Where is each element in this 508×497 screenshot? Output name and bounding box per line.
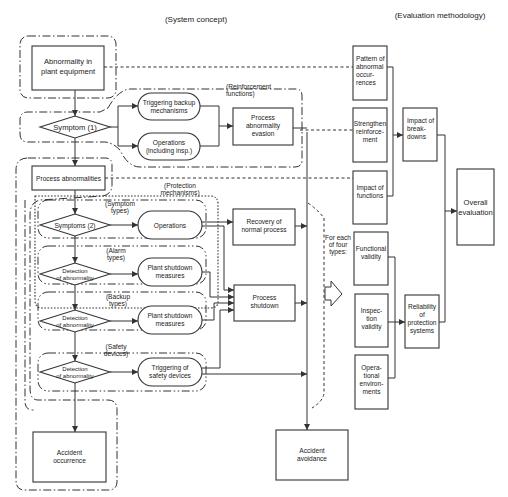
functional-validity-label: validity <box>361 253 382 261</box>
abnormality-equipment-label: plant equipment <box>41 67 96 76</box>
accident-occurrence-label: occurrence <box>53 457 86 464</box>
recovery-label: normal process <box>241 226 287 234</box>
accident-occurrence-label: Accident <box>57 449 82 456</box>
strengthen-box <box>353 108 387 162</box>
strengthen-label: Strengthen <box>354 120 387 128</box>
overall-label: evaluation <box>458 208 493 217</box>
operations-insp-label: (including insp.) <box>146 147 192 155</box>
safety-devices-label: devices) <box>104 350 129 358</box>
triggering-backup-label: mechanisms <box>150 107 188 114</box>
operations-label: Operations <box>154 222 187 230</box>
strengthen-label: reinforce- <box>356 128 384 135</box>
symptom1-label: Symptom (1) <box>53 123 97 132</box>
detection2-label: Detection <box>62 315 87 321</box>
detection3-label: Detection <box>62 366 87 372</box>
operations-insp-label: Operations <box>153 139 186 147</box>
process-shutdown-label: shutdown <box>250 302 279 309</box>
reinforcement-label: functions) <box>226 90 255 98</box>
detection2-label: of abnormality <box>56 322 94 328</box>
evasion-label: abnormality <box>246 122 281 130</box>
reliability-label: of <box>419 311 425 318</box>
for-each-label: For each <box>325 234 351 241</box>
evaluation-methodology-header: (Evaluation methodology) <box>395 11 486 20</box>
evasion-label: Process <box>251 114 276 121</box>
detection1-label: Detection <box>62 268 87 274</box>
functional-validity-label: Functional <box>356 245 387 252</box>
process-abnormalities-label: Process abnormalities <box>36 175 102 182</box>
hollow-arrow-icon <box>325 281 342 306</box>
triggering-backup-label: Triggering backup <box>143 99 196 107</box>
flow-diagram: (System concept) (Evaluation methodology… <box>0 0 508 497</box>
detection1-diamond <box>40 263 110 285</box>
accident-avoidance-label: avoidance <box>297 455 327 462</box>
operational-env-label: environ- <box>360 380 384 387</box>
system-concept-header: (System concept) <box>165 15 228 24</box>
impact-breakdowns-label: break- <box>407 125 426 132</box>
plant-shutdown2-label: measures <box>156 320 186 327</box>
accident-avoidance-label: Accident <box>299 447 324 454</box>
pattern-label: abnormal <box>356 63 384 70</box>
backup-types-label: types) <box>109 300 127 308</box>
dashed-bracket <box>308 203 324 408</box>
reliability-label: protection <box>408 319 437 327</box>
inspection-validity-label: tion <box>366 315 377 322</box>
impact-breakdowns-label: Impact of <box>407 117 434 125</box>
triggering-safety-label: Triggering of <box>152 364 189 372</box>
detection3-label: of abnormality <box>56 373 94 379</box>
reliability-label: Reliability <box>408 303 437 311</box>
overall-label: Overall <box>463 198 487 207</box>
evasion-label: evasion <box>252 130 275 137</box>
abnormality-equipment-label: Abnormality in <box>44 57 92 66</box>
plant-shutdown1-label: Plant shutdown <box>147 264 192 271</box>
reliability-label: systems <box>410 327 435 335</box>
plant-shutdown1-label: measures <box>156 272 186 279</box>
symptoms2-label: Symptoms (2) <box>54 222 95 230</box>
symptom-types-label: types) <box>111 207 129 215</box>
impact-breakdowns-label: downs <box>407 133 427 140</box>
impact-functions-label: functions <box>357 192 384 199</box>
recovery-label: Recovery of <box>246 218 281 226</box>
operational-env-label: tional <box>364 372 380 379</box>
pattern-label: rences <box>356 79 376 86</box>
inspection-validity-label: validity <box>361 323 382 331</box>
for-each-label: of four <box>329 241 348 248</box>
protection-label: mechanisms) <box>160 189 199 197</box>
pattern-label: Pattern of <box>356 55 385 62</box>
plant-shutdown2-label: Plant shutdown <box>147 312 192 319</box>
detection1-label: of abnormality <box>56 275 94 281</box>
detection3-diamond <box>40 361 110 383</box>
triggering-safety-label: safety devices <box>149 372 191 380</box>
operational-env-label: ments <box>363 388 382 395</box>
impact-functions-label: Impact of <box>356 184 383 192</box>
detection2-diamond <box>40 310 110 332</box>
overall-evaluation-box <box>457 169 494 245</box>
pattern-label: occur- <box>356 71 374 78</box>
alarm-types-label: types) <box>107 254 125 262</box>
process-shutdown-label: Process <box>253 294 278 301</box>
operational-env-label: Opera- <box>361 364 382 372</box>
for-each-label: types: <box>329 248 347 256</box>
strengthen-label: ment <box>363 136 378 143</box>
inspection-validity-label: Inspec- <box>361 307 383 315</box>
